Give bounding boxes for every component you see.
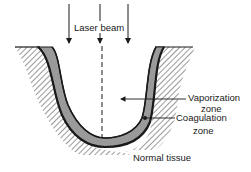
laser-crater-diagram: Laser beam Vaporization zone Coagulation… — [0, 0, 251, 172]
vaporization-zone-label: Vaporization — [188, 92, 240, 103]
coagulation-zone-label-2: zone — [193, 125, 214, 136]
laser-beam-label: Laser beam — [74, 22, 124, 33]
coagulation-pointer-dot — [143, 116, 147, 120]
normal-tissue-label: Normal tissue — [133, 152, 191, 163]
coagulation-zone-label: Coagulation — [176, 112, 227, 123]
